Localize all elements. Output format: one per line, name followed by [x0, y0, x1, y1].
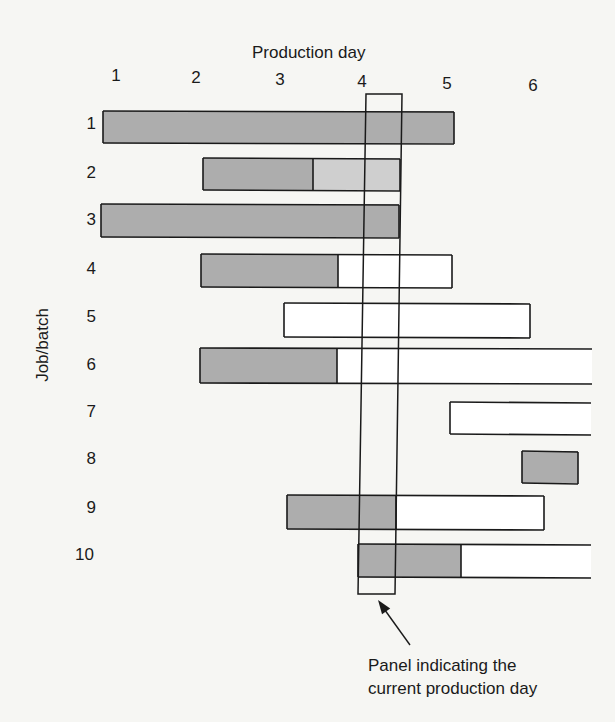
job-bar-8 — [522, 451, 578, 484]
job-bar-6 — [200, 348, 592, 384]
bar-segment-planned — [337, 348, 592, 383]
bar-segment-in_progress — [313, 158, 400, 190]
job-bar-5 — [284, 303, 530, 338]
bar-segment-planned — [284, 303, 530, 337]
job-bar-9 — [287, 495, 544, 530]
gantt-chart — [0, 0, 615, 722]
bar-segment-planned — [461, 544, 591, 577]
job-bar-7 — [450, 402, 591, 435]
job-bar-2 — [203, 158, 400, 191]
bar-segment-planned — [396, 495, 544, 529]
bar-segment-planned — [450, 402, 591, 434]
bar-segment-completed — [358, 544, 461, 577]
job-bar-3 — [101, 204, 399, 238]
job-bar-10 — [358, 544, 591, 578]
bar-segment-completed — [101, 204, 399, 237]
annotation-line-1: Panel indicating the — [368, 654, 537, 677]
production-schedule-diagram: Production day 123456 Job/batch 12345678… — [0, 0, 615, 722]
arrow-icon — [378, 600, 410, 645]
annotation-line-2: current production day — [368, 677, 537, 700]
bar-segment-planned — [338, 254, 452, 287]
bar-segment-completed — [203, 158, 313, 190]
bar-segment-completed — [522, 451, 578, 483]
panel-annotation: Panel indicating the current production … — [368, 654, 537, 700]
bar-segment-completed — [200, 348, 337, 383]
bar-segment-completed — [287, 495, 396, 529]
job-bar-4 — [201, 254, 452, 288]
bar-segment-completed — [201, 254, 338, 287]
